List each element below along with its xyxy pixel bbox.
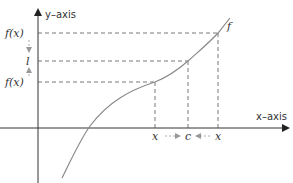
x-axis-label: x–axis xyxy=(256,111,287,122)
curve-f xyxy=(62,18,230,178)
label-limit-l: l xyxy=(26,55,30,68)
label-c: c xyxy=(185,130,191,143)
label-lower-fx: f(x) xyxy=(4,76,24,89)
limit-diagram: y–axis x–axis f f(x) l f(x) x c x xyxy=(0,0,293,183)
curve-label-f: f xyxy=(226,20,233,33)
label-right-x: x xyxy=(215,130,222,143)
y-axis-label: y–axis xyxy=(45,9,76,20)
label-upper-fx: f(x) xyxy=(4,27,24,40)
label-left-x: x xyxy=(152,130,159,143)
